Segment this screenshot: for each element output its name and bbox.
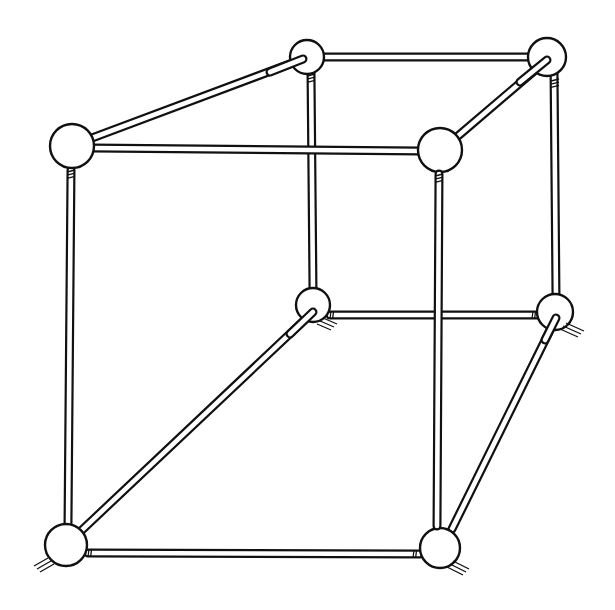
stick-back-right-vertical — [554, 70, 556, 296]
impossible-cube-drawing — [0, 0, 615, 610]
ground-hatch — [447, 567, 463, 575]
ground-hatch — [34, 558, 48, 566]
stick-bottom-right-depth — [452, 318, 556, 529]
node-front-bottom-left — [45, 524, 87, 566]
stick-bottom-left-depth — [82, 312, 313, 530]
ground-hatch — [453, 561, 469, 569]
node-front-top-right — [418, 128, 462, 172]
ground-hatch — [450, 564, 466, 572]
ground-hatch — [563, 326, 581, 334]
ground-hatch — [37, 561, 51, 569]
sticks-front-layer — [437, 174, 439, 526]
stick-back-left-vertical — [311, 72, 313, 290]
stick-front-bottom-edge — [88, 553, 420, 554]
ground-hatch — [566, 323, 584, 331]
node-front-top-left — [50, 124, 94, 168]
diagram-canvas: Impossible cube (ball-and-stick frame) — [0, 0, 615, 610]
ground-hatch — [560, 329, 578, 337]
stick-front-right-vertical — [437, 174, 439, 526]
ground-hatch — [40, 564, 54, 572]
stick-front-left-vertical — [68, 170, 71, 524]
stick-top-front-edge — [92, 148, 420, 151]
